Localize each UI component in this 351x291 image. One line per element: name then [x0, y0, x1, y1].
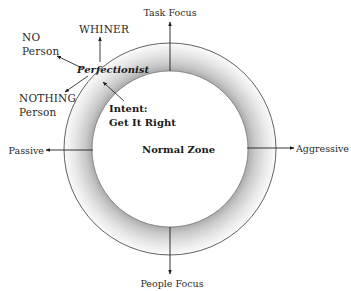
perfectionist-label: Perfectionist — [76, 64, 149, 75]
no-person-arrow — [57, 56, 82, 68]
aggressive-label: Aggressive — [295, 143, 349, 154]
task-focus-label: Task Focus — [143, 7, 196, 18]
no-person-label-line2: Person — [22, 45, 60, 57]
nothing-person-label-line2: Person — [19, 106, 57, 118]
normal-zone-label: Normal Zone — [142, 144, 215, 155]
passive-label: Passive — [9, 145, 45, 156]
whiner-label: WHINER — [79, 23, 130, 35]
people-focus-label: People Focus — [140, 278, 203, 289]
no-person-label-line1: NO — [22, 31, 40, 43]
nothing-person-label-line1: NOTHING — [19, 92, 76, 104]
intent-label-line2: Get It Right — [109, 117, 176, 128]
behavior-zone-diagram: Task Focus People Focus Passive Aggressi… — [0, 0, 351, 291]
intent-label-line1: Intent: — [109, 103, 148, 114]
